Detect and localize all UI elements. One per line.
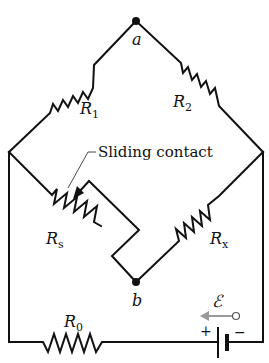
sliding-contact-label: Sliding contact — [98, 143, 213, 161]
wheatstone-bridge-diagram: a b R1 R2 Rs Rx R0 Sliding contact ℰ + − — [0, 0, 269, 363]
r1-label: R1 — [79, 99, 99, 121]
battery-icon — [218, 327, 227, 358]
node-a-label: a — [132, 30, 142, 49]
node-b-label: b — [132, 291, 142, 310]
emf-arrow-icon — [200, 311, 240, 321]
branch-r1 — [9, 21, 136, 152]
battery-minus-label: − — [234, 324, 246, 340]
resistor-rs — [9, 152, 101, 226]
r0-label: R0 — [63, 312, 83, 334]
node-b-dot — [132, 278, 140, 286]
battery-plus-label: + — [200, 323, 212, 339]
branch-rx — [136, 152, 263, 282]
sliding-contact-wire — [73, 181, 139, 282]
node-a-dot — [132, 17, 140, 25]
branch-r2 — [136, 21, 263, 152]
emf-label: ℰ — [212, 291, 224, 311]
rx-label: Rx — [209, 229, 229, 251]
rs-label: Rs — [45, 229, 64, 251]
r2-label: R2 — [172, 92, 192, 114]
outer-loop-with-r0 — [9, 152, 263, 352]
